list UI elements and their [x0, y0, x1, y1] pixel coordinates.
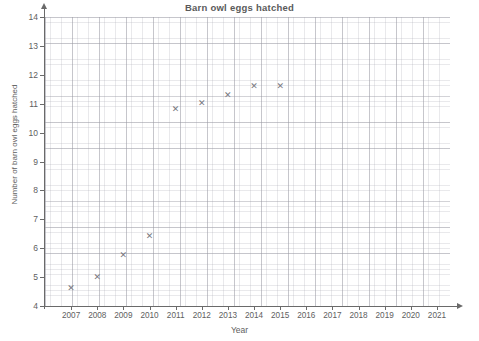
y-tick-label: 4	[18, 301, 38, 311]
x-tick	[306, 306, 307, 310]
x-axis-arrow-icon	[457, 303, 463, 309]
x-tick	[97, 306, 98, 310]
y-tick-label: 7	[18, 214, 38, 224]
x-tick	[280, 306, 281, 310]
y-axis-line	[44, 8, 45, 309]
data-point	[250, 82, 259, 91]
x-tick	[176, 306, 177, 310]
plot-area	[45, 17, 450, 306]
y-tick	[40, 104, 45, 105]
data-point	[276, 82, 285, 91]
x-tick	[202, 306, 203, 310]
y-tick-label: 6	[18, 243, 38, 253]
y-tick-label: 12	[18, 70, 38, 80]
y-tick	[40, 162, 45, 163]
data-point	[93, 273, 102, 282]
x-tick	[123, 306, 124, 310]
y-tick	[40, 306, 45, 307]
data-point	[67, 284, 76, 293]
y-tick-label: 13	[18, 41, 38, 51]
cropped-text-above-title	[0, 0, 479, 1]
y-tick	[40, 277, 45, 278]
y-tick-label: 9	[18, 157, 38, 167]
x-tick	[228, 306, 229, 310]
y-axis-title: Number of barn owl eggs hatched	[10, 55, 19, 235]
data-point	[119, 251, 128, 260]
x-tick	[254, 306, 255, 310]
x-tick	[437, 306, 438, 310]
x-tick	[71, 306, 72, 310]
y-tick	[40, 219, 45, 220]
y-tick-label: 8	[18, 185, 38, 195]
x-axis-line	[44, 306, 460, 307]
y-tick	[40, 46, 45, 47]
data-point	[171, 105, 180, 114]
x-tick	[385, 306, 386, 310]
x-tick	[359, 306, 360, 310]
data-point	[197, 99, 206, 108]
y-tick	[40, 75, 45, 76]
x-tick-label: 2021	[417, 311, 457, 320]
x-axis-title: Year	[0, 325, 479, 335]
x-tick	[411, 306, 412, 310]
y-tick-label: 10	[18, 128, 38, 138]
y-tick	[40, 17, 45, 18]
grid-lines	[45, 17, 450, 306]
y-tick	[40, 248, 45, 249]
x-tick	[150, 306, 151, 310]
chart-title: Barn owl eggs hatched	[0, 2, 479, 13]
y-axis-arrow-icon	[41, 3, 47, 9]
y-tick-label: 14	[18, 12, 38, 22]
data-point	[223, 91, 232, 100]
y-tick-label: 5	[18, 272, 38, 282]
y-tick-label: 11	[18, 99, 38, 109]
data-point	[145, 232, 154, 241]
y-tick	[40, 133, 45, 134]
y-tick	[40, 190, 45, 191]
x-tick	[332, 306, 333, 310]
